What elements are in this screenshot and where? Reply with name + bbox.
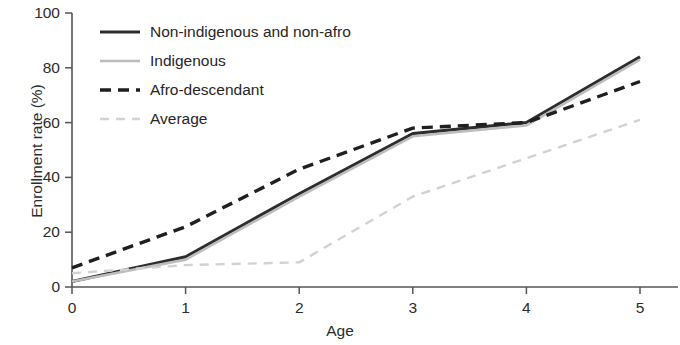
legend-item-1: Indigenous — [99, 49, 351, 73]
dashed-light-line — [99, 112, 141, 126]
legend-item-2: Afro-descendant — [99, 78, 351, 102]
solid-light-line — [99, 54, 141, 68]
x-tick-label-1: 1 — [166, 300, 206, 316]
solid-dark-line — [99, 25, 141, 39]
chart-legend: Non-indigenous and non-afroIndigenousAfr… — [99, 20, 351, 131]
enrollment-rate-line-chart: Enrollment rate (%) Age 020406080100 012… — [0, 0, 680, 345]
x-tick-label-2: 2 — [279, 300, 319, 316]
x-tick-label-3: 3 — [393, 300, 433, 316]
x-tick-label-5: 5 — [620, 300, 660, 316]
y-tick-label-0: 0 — [14, 279, 60, 295]
x-tick-label-0: 0 — [52, 300, 92, 316]
y-tick-label-100: 100 — [14, 5, 60, 21]
legend-item-3: Average — [99, 107, 351, 131]
y-tick-label-80: 80 — [14, 60, 60, 76]
x-axis-title: Age — [0, 322, 680, 340]
series-line-3 — [72, 120, 640, 273]
y-tick-label-20: 20 — [14, 224, 60, 240]
legend-label-1: Indigenous — [150, 53, 226, 69]
dashed-dark-line — [99, 83, 141, 97]
legend-label-2: Afro-descendant — [150, 82, 264, 98]
y-tick-label-60: 60 — [14, 115, 60, 131]
y-tick-label-40: 40 — [14, 169, 60, 185]
y-axis-title: Enrollment rate (%) — [28, 51, 46, 251]
legend-item-0: Non-indigenous and non-afro — [99, 20, 351, 44]
legend-label-0: Non-indigenous and non-afro — [150, 24, 351, 40]
legend-label-3: Average — [150, 111, 207, 127]
x-tick-label-4: 4 — [506, 300, 546, 316]
